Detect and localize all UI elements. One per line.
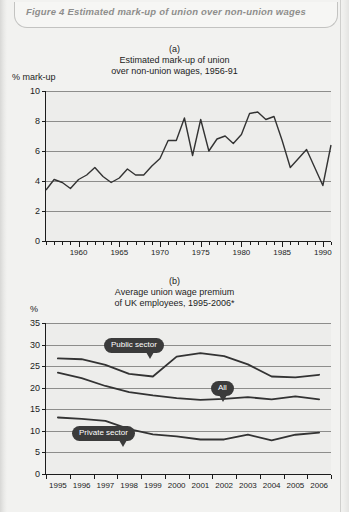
chart-b: (b) Average union wage premium of UK emp…: [0, 276, 349, 512]
chart-a: (a) Estimated mark-up of union over non-…: [0, 44, 349, 269]
callout-all: All: [211, 381, 234, 396]
callout-private-sector-label: Private sector: [79, 428, 128, 437]
figure-page: Figure 4 Estimated mark-up of union over…: [0, 0, 349, 512]
chart-a-series-line: [46, 112, 331, 190]
callout-private-sector: Private sector: [72, 426, 135, 441]
chart-a-series-layer: [0, 44, 349, 269]
callout-public-sector: Public sector: [104, 338, 164, 353]
callout-all-label: All: [218, 383, 227, 392]
chart-b-series-layer: [0, 276, 349, 512]
callout-tail: [219, 395, 227, 402]
chart-b-series-line-public-sector: [58, 353, 319, 377]
callout-public-sector-label: Public sector: [111, 340, 157, 349]
callout-tail: [146, 352, 154, 359]
callout-tail: [119, 440, 127, 447]
figure-caption-text: Figure 4 Estimated mark-up of union over…: [26, 6, 336, 17]
